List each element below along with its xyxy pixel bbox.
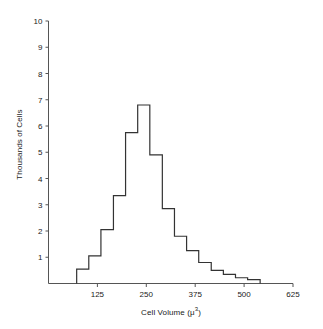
y-tick-label-group: 12345678910 bbox=[34, 17, 43, 262]
y-tick-label: 4 bbox=[38, 175, 43, 184]
y-tick-label: 6 bbox=[38, 122, 43, 131]
y-tick-label: 2 bbox=[38, 227, 43, 236]
x-tick-label: 125 bbox=[91, 290, 105, 299]
x-tick-label: 250 bbox=[140, 290, 154, 299]
y-tick-label: 9 bbox=[38, 43, 43, 52]
y-tick-label: 3 bbox=[38, 201, 43, 210]
y-tick-label: 10 bbox=[34, 17, 43, 26]
y-tick-label: 5 bbox=[38, 148, 43, 157]
histogram-step-line bbox=[77, 105, 260, 284]
x-axis-title-base: Cell Volume (μ bbox=[141, 308, 195, 317]
y-tick-label: 1 bbox=[38, 253, 43, 262]
x-tick-label: 500 bbox=[237, 290, 251, 299]
histogram-chart: 12345678910 125250375500625 Thousands of… bbox=[0, 0, 323, 329]
plot-area: 12345678910 125250375500625 bbox=[0, 0, 323, 329]
y-axis-title-text: Thousands of Cells bbox=[15, 109, 24, 179]
x-tick-mark-group bbox=[97, 284, 293, 288]
x-tick-label: 625 bbox=[286, 290, 300, 299]
x-tick-label-group: 125250375500625 bbox=[91, 290, 300, 299]
y-axis-title: Thousands of Cells bbox=[15, 90, 24, 200]
x-axis-title: Cell Volume (μ3) bbox=[48, 306, 294, 317]
y-tick-label: 7 bbox=[38, 96, 43, 105]
x-tick-label: 375 bbox=[189, 290, 203, 299]
x-axis-title-close: ) bbox=[198, 308, 201, 317]
y-tick-label: 8 bbox=[38, 70, 43, 79]
